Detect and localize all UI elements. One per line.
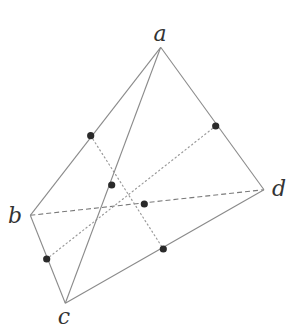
tetrahedron-diagram: a b c d <box>0 0 302 336</box>
bimedian-ab-cd <box>91 136 164 249</box>
vertex-label-a: a <box>153 21 166 46</box>
midpoint-ac <box>108 181 115 188</box>
midpoint-cd <box>160 245 167 252</box>
bimedian-ad-bc <box>47 126 216 259</box>
edge-ab <box>30 47 160 215</box>
edge-ac <box>65 47 160 303</box>
vertex-label-c: c <box>58 304 70 329</box>
vertex-label-b: b <box>8 203 22 228</box>
midpoint-bd <box>141 200 148 207</box>
midpoint-bc <box>43 255 50 262</box>
midpoint-ad <box>212 122 219 129</box>
midpoint-ab <box>87 132 94 139</box>
vertex-label-d: d <box>272 176 286 201</box>
edge-ad <box>161 47 264 189</box>
